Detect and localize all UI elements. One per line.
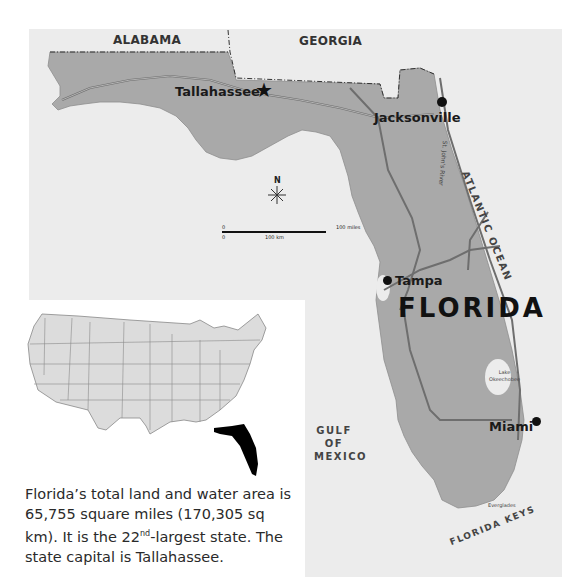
label-georgia: GEORGIA [299,34,362,48]
scale-zero-bottom: 0 [222,234,225,240]
compass-north-label: N [274,176,281,185]
label-miami: Miami [489,419,533,434]
miami-dot-icon [532,417,541,426]
tampa-dot-icon [383,276,392,285]
scale-bar [222,231,326,233]
label-tampa: Tampa [395,273,443,288]
map-title: FLORIDA [398,293,546,323]
capital-star-icon: ★ [255,78,273,102]
label-everglades: Everglades [488,502,516,508]
compass-rose-icon [267,185,287,205]
us-locator-inset: Florida’s total land and water area is 6… [0,300,305,582]
label-jacksonville: Jacksonville [374,110,461,125]
label-alabama: ALABAMA [113,33,181,47]
scale-zero-top: 0 [222,224,225,230]
us-outline [28,314,266,434]
label-tallahassee: Tallahassee [175,84,260,99]
florida-description: Florida’s total land and water area is 6… [25,485,300,567]
label-lake-okeechobee: Lake Okeechobee [489,369,520,383]
florida-highlight [214,424,258,476]
scale-miles-label: 100 miles [336,224,360,230]
jacksonville-dot-icon [437,97,447,107]
label-gulf-of-mexico: GULF OF MEXICO [314,424,354,463]
scale-km-label: 100 km [265,234,284,240]
us-map-svg [0,300,305,490]
